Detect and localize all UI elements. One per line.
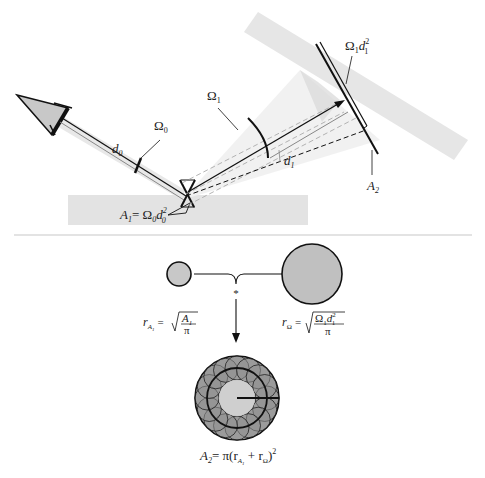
arrow-down <box>232 333 240 343</box>
label-omega0: Ω0 <box>154 118 168 135</box>
label-omega1: Ω1 <box>207 88 221 105</box>
minkowski-sum-circle <box>195 356 279 440</box>
svg-text:π: π <box>325 325 331 337</box>
label-a2: A2 <box>366 178 379 195</box>
formula-r-a1: rA1= A1 π <box>143 312 198 336</box>
formula-r-omega: rΩ= Ω1d21 π <box>282 311 345 337</box>
convolution-brace <box>194 274 282 284</box>
circle-a1 <box>167 262 191 286</box>
circle-omega <box>282 244 342 304</box>
svg-text:rΩ=: rΩ= <box>282 315 301 331</box>
top-diagram: Ω0 Ω1 d0 d1 A1= Ω0d20 Ω1d21 A2 <box>17 12 468 225</box>
svg-text:π: π <box>184 324 190 336</box>
bottom-diagram: * rA1= A1 π rΩ= Ω1d21 π <box>143 244 345 466</box>
label-d0: d0 <box>112 141 123 158</box>
surface-band-a1 <box>68 195 308 225</box>
label-omega1-d1-squared: Ω1d21 <box>345 37 369 56</box>
convolution-symbol: * <box>233 287 239 299</box>
formula-a2: A2= π(rA1 + rΩ)2 <box>199 447 276 466</box>
diagram-canvas: Ω0 Ω1 d0 d1 A1= Ω0d20 Ω1d21 A2 * rA1= A1… <box>0 0 485 478</box>
svg-text:rA1=: rA1= <box>143 315 164 332</box>
